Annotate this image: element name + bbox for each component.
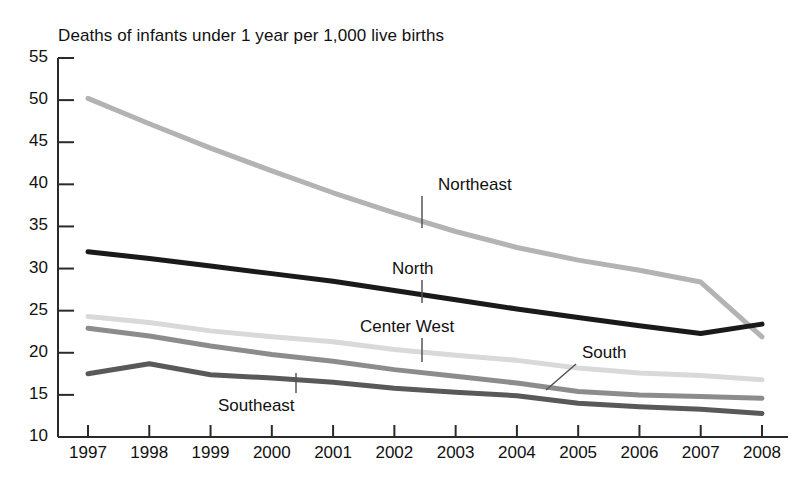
y-tick-label: 20 (8, 342, 48, 362)
x-tick-label: 2004 (482, 443, 552, 463)
axis-lines (58, 58, 788, 437)
series-label-northeast: Northeast (438, 175, 512, 195)
x-axis-ticks (88, 425, 762, 437)
x-tick-label: 2000 (237, 443, 307, 463)
x-tick-label: 1999 (176, 443, 246, 463)
x-tick-label: 1998 (114, 443, 184, 463)
series-label-south: South (582, 343, 626, 363)
series-label-center-west: Center West (360, 317, 454, 337)
series-label-southeast: Southeast (218, 396, 295, 416)
y-tick-label: 45 (8, 131, 48, 151)
x-tick-label: 2007 (666, 443, 736, 463)
series-line-northeast (88, 98, 762, 336)
x-tick-label: 2001 (298, 443, 368, 463)
series-label-north: North (392, 259, 434, 279)
y-tick-label: 25 (8, 300, 48, 320)
y-tick-label: 35 (8, 215, 48, 235)
y-tick-label: 10 (8, 426, 48, 446)
x-tick-label: 1997 (53, 443, 123, 463)
y-tick-label: 40 (8, 173, 48, 193)
x-tick-label: 2006 (604, 443, 674, 463)
y-axis-ticks (58, 58, 74, 437)
series-lines (88, 98, 762, 413)
y-tick-label: 55 (8, 47, 48, 67)
plot-area (0, 0, 802, 483)
y-tick-label: 50 (8, 89, 48, 109)
x-tick-label: 2002 (359, 443, 429, 463)
y-tick-label: 30 (8, 258, 48, 278)
x-tick-label: 2008 (727, 443, 797, 463)
x-tick-label: 2003 (421, 443, 491, 463)
x-tick-label: 2005 (543, 443, 613, 463)
y-tick-label: 15 (8, 384, 48, 404)
infant-mortality-line-chart: Deaths of infants under 1 year per 1,000… (0, 0, 802, 483)
